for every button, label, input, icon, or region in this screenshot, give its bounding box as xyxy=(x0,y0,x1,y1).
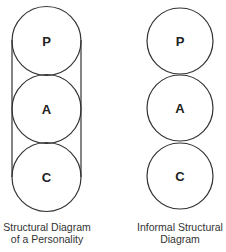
caption-line-2: of a Personality xyxy=(0,233,102,245)
adult-label: A xyxy=(42,102,52,117)
caption-line-1: Structural Diagram xyxy=(0,221,102,233)
adult-label: A xyxy=(175,101,185,116)
diagram-canvas: P A C P A C xyxy=(0,0,226,252)
caption-line-2: Diagram xyxy=(125,233,226,245)
structural-diagram-caption: Structural Diagram of a Personality xyxy=(0,221,102,245)
parent-label: P xyxy=(42,34,51,49)
informal-structural-diagram-caption: Informal Structural Diagram xyxy=(125,221,226,245)
child-label: C xyxy=(42,170,52,185)
parent-label: P xyxy=(176,34,185,49)
caption-line-1: Informal Structural xyxy=(125,221,226,233)
child-label: C xyxy=(175,169,185,184)
